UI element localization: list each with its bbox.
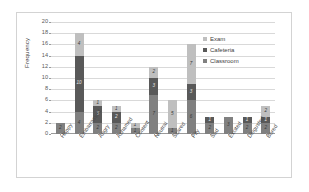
bar-segment-exam[interactable]: 2 bbox=[149, 67, 158, 78]
bar-group[interactable]: 2 bbox=[51, 22, 70, 134]
bar-value-label: 7 bbox=[190, 62, 193, 67]
bar-value-label: 1 bbox=[134, 123, 137, 128]
legend-label: Exam bbox=[210, 36, 225, 42]
y-axis-tick-label: 16 bbox=[42, 42, 48, 48]
bar-value-label: 1 bbox=[115, 107, 118, 112]
y-axis-title: Frequency bbox=[23, 38, 30, 68]
bar-value-label: 3 bbox=[152, 84, 155, 89]
bar-value-label: 10 bbox=[76, 81, 81, 86]
bar-group[interactable]: 4104 bbox=[70, 22, 89, 134]
y-axis-tick-label: 14 bbox=[42, 53, 48, 59]
bar-value-label: 3 bbox=[190, 90, 193, 95]
bar-segment-cafeteria[interactable]: 10 bbox=[75, 56, 84, 112]
stacked-bar[interactable]: 237 bbox=[149, 67, 158, 134]
y-axis-tick-label: 20 bbox=[42, 19, 48, 25]
y-axis-tick-label: 6 bbox=[45, 98, 48, 104]
x-axis-labels: HappyEmbarrassedAngryAshamedContentNeutr… bbox=[51, 135, 275, 179]
legend-swatch-icon bbox=[203, 37, 207, 41]
bar-value-label: 1 bbox=[208, 118, 211, 123]
legend-item-classroom[interactable]: Classroom bbox=[203, 55, 283, 66]
bar-value-label: 4 bbox=[78, 121, 81, 126]
bar-segment-cafeteria[interactable]: 3 bbox=[149, 78, 158, 95]
bar-value-label: 6 bbox=[190, 115, 193, 120]
bar-segment-exam[interactable]: 7 bbox=[187, 44, 196, 83]
bar-value-label: 5 bbox=[171, 112, 174, 117]
y-axis-tick-label: 10 bbox=[42, 75, 48, 81]
bar-segment-exam[interactable]: 4 bbox=[75, 33, 84, 55]
bar-value-label: 1 bbox=[246, 118, 249, 123]
bar-value-label: 2 bbox=[246, 126, 249, 131]
bar-segment-cafeteria[interactable]: 3 bbox=[187, 84, 196, 101]
chart-legend: ExamCafeteriaClassroom bbox=[203, 33, 283, 66]
bar-value-label: 4 bbox=[78, 42, 81, 47]
y-axis-tick-label: 18 bbox=[42, 30, 48, 36]
bar-value-label: 1 bbox=[96, 101, 99, 106]
y-axis-tick-label: 2 bbox=[45, 120, 48, 126]
legend-swatch-icon bbox=[203, 59, 207, 63]
bar-value-label: 7 bbox=[152, 112, 155, 117]
stacked-bar[interactable]: 4104 bbox=[75, 33, 84, 134]
bar-value-label: 2 bbox=[208, 126, 211, 131]
bar-value-label: 2 bbox=[96, 126, 99, 131]
bar-value-label: 3 bbox=[227, 123, 230, 128]
y-axis-tick-label: 4 bbox=[45, 109, 48, 115]
legend-label: Classroom bbox=[210, 58, 239, 64]
legend-item-cafeteria[interactable]: Cafeteria bbox=[203, 44, 283, 55]
legend-item-exam[interactable]: Exam bbox=[203, 33, 283, 44]
bar-segment-exam[interactable]: 5 bbox=[168, 100, 177, 128]
bar-value-label: 2 bbox=[115, 126, 118, 131]
bar-group[interactable]: 237 bbox=[144, 22, 163, 134]
y-axis-tick-label: 0 bbox=[45, 131, 48, 137]
chart-frame: Frequency 02468101214161820 241041321221… bbox=[16, 12, 292, 178]
legend-swatch-icon bbox=[203, 48, 207, 52]
bar-value-label: 2 bbox=[264, 126, 267, 131]
y-axis-tick-label: 8 bbox=[45, 86, 48, 92]
legend-label: Cafeteria bbox=[210, 47, 234, 53]
bar-value-label: 2 bbox=[115, 115, 118, 120]
bar-value-label: 2 bbox=[59, 126, 62, 131]
bar-group[interactable]: 51 bbox=[163, 22, 182, 134]
bar-group[interactable]: 736 bbox=[182, 22, 201, 134]
bar-group[interactable]: 122 bbox=[107, 22, 126, 134]
bar-value-label: 2 bbox=[264, 109, 267, 114]
stacked-bar[interactable]: 736 bbox=[187, 44, 196, 134]
y-axis-tick-label: 12 bbox=[42, 64, 48, 70]
bar-value-label: 2 bbox=[152, 70, 155, 75]
bar-segment-cafeteria[interactable]: 2 bbox=[112, 112, 121, 123]
